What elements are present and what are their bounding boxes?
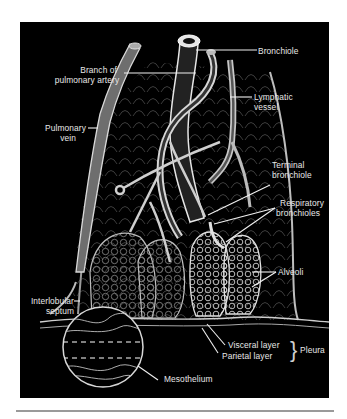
label-pleura: Pleura [300, 345, 325, 355]
label-interlobular-septum: Interlobular septum [22, 296, 74, 316]
label-lymphatic-line2: vessel [254, 102, 293, 112]
label-respiratory-bronchioles: Respiratory bronchioles [276, 198, 324, 218]
label-vein-line1: Pulmonary [20, 123, 86, 133]
leader-mesothelium [138, 366, 158, 380]
label-parietal-layer: Parietal layer [222, 351, 272, 361]
label-septum-line1: Interlobular [22, 296, 74, 306]
label-lymphatic-vessel: Lymphatic vessel [254, 92, 293, 112]
label-pulmonary-vein: Pulmonary vein [20, 123, 86, 143]
label-lymphatic-line1: Lymphatic [254, 92, 293, 102]
illustration-panel: Bronchiole Branch of pulmonary artery Ly… [20, 22, 329, 398]
label-septum-line2: septum [22, 306, 74, 316]
label-respiratory-line2: bronchioles [276, 208, 324, 218]
label-respiratory-line1: Respiratory [276, 198, 324, 208]
label-vein-line2: vein [20, 133, 86, 143]
label-alveoli: Alveoli [278, 267, 303, 277]
label-visceral-layer: Visceral layer [228, 340, 280, 350]
label-artery-line1: Branch of [49, 65, 125, 75]
leader-parietal [202, 328, 218, 353]
label-artery-line2: pulmonary artery [49, 75, 125, 85]
label-terminal-line1: Terminal [272, 160, 312, 170]
pleura-brace: } [290, 337, 297, 363]
label-branch-of-pulmonary-artery: Branch of pulmonary artery [49, 65, 125, 85]
label-terminal-bronchiole: Terminal bronchiole [272, 160, 312, 180]
bottom-divider [16, 410, 334, 412]
label-terminal-line2: bronchiole [272, 170, 312, 180]
label-bronchiole: Bronchiole [258, 46, 299, 56]
label-mesothelium: Mesothelium [164, 374, 213, 384]
leader-visceral [207, 324, 225, 345]
